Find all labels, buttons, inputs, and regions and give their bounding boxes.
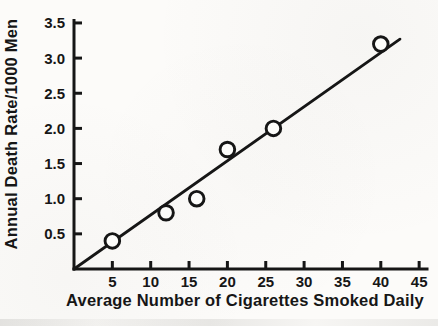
data-point	[374, 37, 389, 52]
y-axis-title: Annual Death Rate/1000 Men	[2, 19, 21, 250]
fit-line	[74, 39, 400, 269]
y-tick-label: 1.0	[44, 190, 65, 207]
x-tick-label: 15	[181, 273, 198, 290]
x-axis-title: Average Number of Cigarettes Smoked Dail…	[66, 291, 424, 310]
x-tick-label: 45	[411, 273, 428, 290]
data-point	[105, 234, 120, 249]
x-tick-label: 5	[108, 273, 116, 290]
x-tick-label: 25	[257, 273, 274, 290]
scatter-chart-figure: 510152025303540450.51.01.52.02.53.03.5 A…	[0, 0, 438, 326]
x-tick-label: 35	[334, 273, 351, 290]
y-tick-label: 1.5	[44, 155, 65, 172]
y-tick-label: 2.5	[44, 85, 65, 102]
data-point	[189, 191, 204, 206]
plot-area: 510152025303540450.51.01.52.02.53.03.5	[0, 0, 438, 326]
scan-artifact-strip	[0, 319, 438, 326]
data-point	[266, 121, 281, 136]
data-point	[159, 205, 174, 220]
data-point	[220, 142, 235, 157]
x-tick-label: 30	[296, 273, 313, 290]
x-tick-label: 40	[372, 273, 389, 290]
y-tick-label: 3.5	[44, 14, 65, 31]
y-tick-label: 3.0	[44, 50, 65, 67]
y-tick-label: 2.0	[44, 120, 65, 137]
x-tick-label: 20	[219, 273, 236, 290]
y-tick-label: 0.5	[44, 225, 65, 242]
x-tick-label: 10	[142, 273, 159, 290]
